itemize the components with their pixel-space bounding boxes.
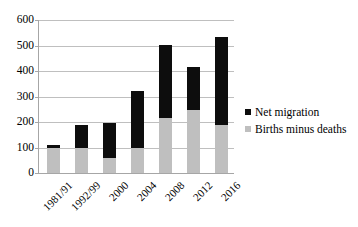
legend-label: Births minus deaths <box>255 123 346 135</box>
legend-item-births-minus-deaths: Births minus deaths <box>245 120 357 137</box>
legend-swatch-icon <box>245 126 251 132</box>
chart-legend: Net migration Births minus deaths <box>245 103 357 137</box>
legend-swatch-icon <box>245 109 251 115</box>
legend-item-net-migration: Net migration <box>245 103 357 120</box>
bar-chart: 0100200300400500600 1981/911992/99200020… <box>0 0 358 227</box>
legend-label: Net migration <box>255 106 319 118</box>
